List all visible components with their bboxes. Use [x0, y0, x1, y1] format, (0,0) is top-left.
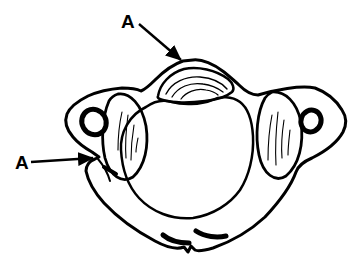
- anatomy-diagram: A A: [0, 0, 358, 268]
- right-facet-hatch-line: [288, 130, 290, 155]
- facet-for-dens-ridge-line: [166, 77, 227, 94]
- right-facet-hatch-line: [268, 115, 272, 160]
- left-label-a: A: [15, 152, 29, 173]
- right-facet-hatch-line: [276, 112, 278, 165]
- left-label-arrow: [31, 158, 93, 162]
- right-transverse-foramen: [298, 107, 324, 135]
- vertebral-foramen: [121, 97, 253, 218]
- facet-for-dens-ridge-line: [181, 89, 218, 99]
- facet-for-dens-ridge-line: [172, 84, 223, 97]
- posterior-arch-shading-mark: [196, 231, 226, 237]
- posterior-arch-shading-mark: [163, 235, 189, 243]
- atlas-vertebra-drawing: A A: [0, 0, 358, 268]
- top-label-a: A: [121, 11, 135, 32]
- left-facet-hatch-line: [126, 115, 128, 158]
- atlas-outer-outline: [66, 60, 346, 252]
- right-facet-hatch-line: [282, 120, 284, 158]
- left-facet-hatch-line: [131, 125, 134, 160]
- left-facet-hatch-line: [136, 138, 138, 152]
- right-superior-articular-facet: [257, 92, 302, 178]
- top-label-arrow: [139, 24, 181, 60]
- left-superior-articular-facet: [103, 94, 147, 180]
